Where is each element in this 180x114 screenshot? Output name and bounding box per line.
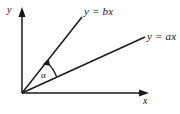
- x-axis-label: x: [143, 96, 148, 106]
- line-a-ray: [22, 37, 145, 93]
- diagram-svg: [0, 0, 180, 114]
- angle-alpha-label: α: [41, 71, 46, 80]
- y-axis: [18, 7, 25, 93]
- y-axis-arrowhead: [18, 7, 25, 17]
- line-a-segment: [22, 37, 145, 93]
- figure-canvas: y x y = bx y = ax α: [0, 0, 180, 114]
- line-b-label: y = bx: [84, 6, 113, 17]
- line-b-ray: [22, 17, 82, 93]
- angle-arc-arrowhead: [43, 59, 51, 66]
- line-b-segment: [22, 17, 82, 93]
- line-a-label: y = ax: [147, 31, 176, 42]
- y-axis-label: y: [7, 5, 12, 15]
- x-axis: [22, 89, 149, 96]
